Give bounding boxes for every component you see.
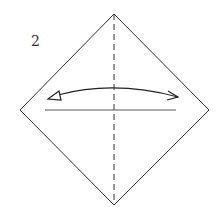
curved-arrow [58,88,178,97]
origami-diagram: 2 [0,0,223,207]
fold-diagram-svg [0,0,223,207]
hollow-arrowhead-left-icon [48,91,61,100]
